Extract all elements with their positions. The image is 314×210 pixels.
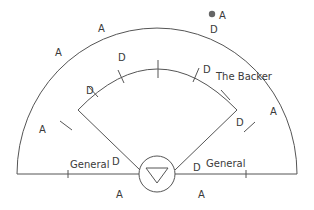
outfield-tick-right [244, 122, 255, 132]
label-a-top: A [98, 23, 105, 34]
label-a-upper-left: A [55, 47, 62, 58]
label-d-general-left: D [112, 156, 120, 167]
label-d-general-right: D [193, 162, 201, 173]
field-diagram: A A A D D D D The Backer A A D General D… [0, 0, 314, 210]
label-a-left: A [39, 124, 46, 135]
label-d-inner-left-upper: D [118, 52, 126, 63]
label-general-left: General [70, 159, 109, 170]
outfield-tick-left [60, 121, 72, 130]
label-a-bottom-right: A [198, 189, 205, 200]
label-d-right-corner: D [236, 117, 244, 128]
label-a-bottom-left: A [116, 189, 123, 200]
label-d-top-right: D [210, 24, 218, 35]
label-d-inner-left: D [86, 85, 94, 96]
label-a-right: A [270, 106, 277, 117]
ball-marker [209, 11, 215, 17]
home-circle [139, 156, 175, 192]
label-the-backer: The Backer [215, 71, 273, 82]
label-general-right: General [206, 158, 245, 169]
label-d-inner-right: D [203, 64, 211, 75]
label-ball-a: A [219, 10, 226, 21]
home-triangle-icon [146, 168, 168, 183]
